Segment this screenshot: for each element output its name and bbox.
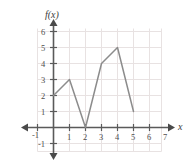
y-tick-label-6: 6 [41, 28, 45, 37]
function-graph-figure: f(x) x 6 5 4 3 2 1 -1 -1 1 2 3 4 5 6 7 [0, 0, 195, 161]
y-axis-label: f(x) [45, 10, 59, 20]
y-tick-label-neg1: -1 [38, 140, 45, 149]
y-tick-label-1: 1 [41, 108, 45, 117]
x-tick-label-4: 4 [115, 133, 119, 142]
y-tick-label-5: 5 [41, 44, 45, 53]
x-tick-label-1: 1 [67, 133, 71, 142]
x-tick-label-3: 3 [99, 133, 103, 142]
y-axis-arrow-down [50, 153, 58, 160]
function-curve [54, 48, 134, 128]
y-tick-label-4: 4 [41, 60, 45, 69]
y-axis-arrow-up [50, 19, 58, 26]
x-tick-label-7: 7 [163, 133, 167, 142]
x-tick-label-neg1: -1 [32, 131, 39, 140]
x-tick-label-5: 5 [131, 133, 135, 142]
y-tick-label-3: 3 [41, 76, 45, 85]
x-axis-arrow-right [168, 124, 175, 132]
x-axis-arrow-left [21, 124, 28, 132]
y-tick-label-2: 2 [41, 92, 45, 101]
x-axis-label: x [178, 122, 182, 132]
x-tick-label-6: 6 [147, 133, 151, 142]
x-tick-label-2: 2 [83, 133, 87, 142]
